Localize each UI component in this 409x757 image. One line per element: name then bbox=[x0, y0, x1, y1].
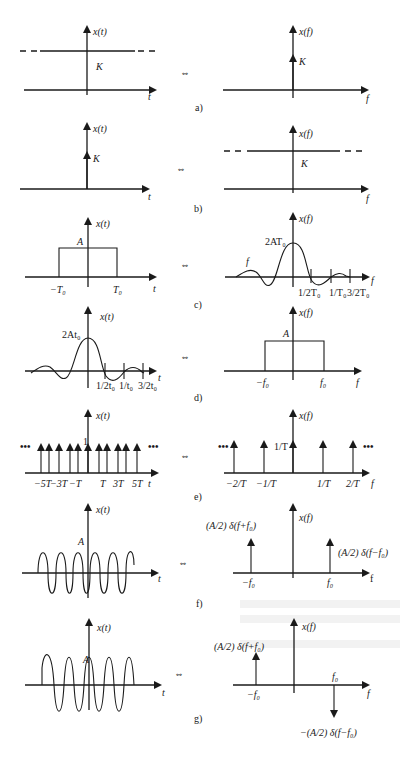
amplitude-label: 1 bbox=[83, 436, 88, 447]
amplitude-label: A bbox=[77, 536, 85, 547]
pair-b: x(t) K t ⇔ x(f) K f b) bbox=[20, 123, 370, 215]
equivalence-arrow-icon: ⇔ bbox=[180, 67, 190, 78]
tick-label: −T bbox=[69, 478, 83, 489]
x-axis-label: t bbox=[153, 283, 156, 294]
y-axis-label: x(f) bbox=[298, 410, 314, 422]
equivalence-arrow-icon: ⇔ bbox=[180, 450, 190, 461]
time-plot-c: x(t) A −T₀ T₀ t bbox=[25, 218, 156, 295]
pair-d: x(t) 2At₀ 1/2t₀ 1/t₀ 3/2t₀ t ⇔ x(f) A −f… bbox=[25, 307, 360, 404]
tick-label: 2/T bbox=[346, 478, 361, 489]
x-axis-label: f bbox=[371, 478, 375, 489]
y-axis-label: x(t) bbox=[95, 410, 111, 422]
tick-label: T bbox=[100, 478, 107, 489]
x-axis-label: f bbox=[366, 93, 370, 104]
tick-label: f₀ bbox=[320, 377, 327, 388]
peak-label: 2At₀ bbox=[62, 329, 81, 340]
caption-f: f) bbox=[196, 598, 203, 610]
impulse-label-left: (A/2) δ(f+f₀) bbox=[214, 641, 265, 653]
equivalence-arrow-icon: ⇔ bbox=[180, 259, 190, 270]
tick-label: f₀ bbox=[332, 671, 339, 682]
x-axis-label: f bbox=[371, 275, 375, 286]
fourier-pairs-figure: x(t) K t ⇔ x(f) K f a) x(t) K t ⇔ bbox=[0, 0, 409, 757]
amplitude-label: A bbox=[76, 236, 84, 247]
equivalence-arrow-icon: ⇔ bbox=[176, 163, 186, 174]
ellipsis-left: ••• bbox=[20, 441, 31, 452]
y-axis-label: x(t) bbox=[92, 123, 108, 135]
impulse-label-left: (A/2) δ(f+f₀) bbox=[206, 520, 257, 532]
caption-d: d) bbox=[194, 392, 202, 404]
tick-label: 5T bbox=[132, 478, 144, 489]
impulse-label-right: (A/2) δ(f−f₀) bbox=[338, 547, 389, 559]
equivalence-arrow-icon: ⇔ bbox=[178, 557, 188, 568]
caption-c: c) bbox=[194, 299, 202, 311]
tick-label: −1/T bbox=[256, 478, 278, 489]
tick-label: −T₀ bbox=[50, 284, 66, 295]
y-axis-label: x(f) bbox=[298, 307, 314, 319]
tick-label: f₀ bbox=[327, 577, 334, 588]
y-axis-label: x(t) bbox=[95, 504, 111, 516]
y-axis-label: x(t) bbox=[96, 622, 112, 634]
ellipsis-left: ••• bbox=[218, 441, 229, 452]
freq-plot-a: x(f) K f bbox=[223, 26, 370, 104]
y-axis-label: x(t) bbox=[95, 218, 111, 230]
amplitude-label: K bbox=[95, 61, 104, 72]
x-axis-label: f bbox=[356, 377, 360, 388]
x-axis-label: f bbox=[367, 688, 371, 699]
y-axis-label: x(f) bbox=[298, 213, 314, 225]
amplitude-label: 1/T bbox=[274, 441, 288, 452]
caption-a: a) bbox=[195, 102, 203, 114]
y-axis-label: x(f) bbox=[301, 621, 317, 633]
y-axis-label: x(f) bbox=[298, 512, 314, 524]
time-plot-f: x(t) A t bbox=[22, 504, 161, 598]
x-axis-label: t bbox=[148, 91, 151, 102]
impulse-label-right: −(A/2) δ(f−f₀) bbox=[300, 727, 358, 739]
x-axis-label: f bbox=[366, 193, 370, 204]
time-plot-d: x(t) 2At₀ 1/2t₀ 1/t₀ 3/2t₀ t bbox=[25, 308, 161, 391]
x-axis-label: t bbox=[148, 191, 151, 202]
caption-b: b) bbox=[194, 203, 202, 215]
freq-plot-f: x(f) (A/2) δ(f+f₀) (A/2) δ(f−f₀) −f₀ f₀ … bbox=[206, 505, 389, 588]
x-axis-label: t bbox=[158, 372, 161, 383]
amplitude-label: A bbox=[82, 654, 90, 665]
tick-label: 1/2T₀ bbox=[298, 287, 321, 298]
pair-c: x(t) A −T₀ T₀ t ⇔ x(f) 2AT₀ f 1/2T₀ 1/T₀… bbox=[25, 213, 375, 311]
time-plot-e: ••• ••• 1 x(t) −5T −3T −T T 3T 5T t bbox=[20, 410, 159, 489]
equivalence-arrow-icon: ⇔ bbox=[174, 668, 184, 679]
caption-e: e) bbox=[194, 491, 202, 503]
x-axis-label: t bbox=[158, 573, 161, 584]
curve-label: f bbox=[246, 256, 250, 267]
equivalence-arrow-icon: ⇔ bbox=[180, 351, 190, 362]
y-axis-label: x(f) bbox=[298, 128, 314, 140]
tick-label: 1/T₀ bbox=[329, 287, 347, 298]
freq-plot-g: x(f) (A/2) δ(f+f₀) −(A/2) δ(f−f₀) −f₀ f₀… bbox=[214, 620, 371, 739]
freq-plot-b: x(f) K f bbox=[224, 127, 370, 204]
time-plot-a: x(t) K t bbox=[20, 26, 155, 102]
y-axis-label: x(t) bbox=[99, 311, 115, 323]
impulse-train bbox=[41, 445, 137, 473]
pair-f: x(t) A t ⇔ x(f) (A/2) δ(f+f₀) (A/2) δ(f−… bbox=[22, 504, 389, 610]
tick-label: 1/t₀ bbox=[119, 380, 134, 391]
x-axis-label: f bbox=[370, 573, 374, 584]
peak-label: 2AT₀ bbox=[265, 236, 286, 247]
constant-label: K bbox=[300, 158, 309, 169]
tick-label: 1/T bbox=[317, 478, 332, 489]
y-axis-label: x(t) bbox=[92, 26, 108, 38]
time-plot-b: x(t) K t bbox=[20, 123, 151, 202]
y-axis-label: x(f) bbox=[298, 26, 314, 38]
ellipsis-right: ••• bbox=[148, 441, 159, 452]
tick-label: 3T bbox=[112, 478, 125, 489]
freq-plot-e: ••• ••• 1/T x(f) −2/T −1/T 1/T 2/T f bbox=[218, 410, 375, 489]
tick-label: −3T bbox=[50, 478, 69, 489]
tick-label: −f₀ bbox=[242, 577, 256, 588]
tick-label: −f₀ bbox=[256, 377, 270, 388]
freq-plot-d: x(f) A −f₀ f₀ f bbox=[224, 307, 360, 388]
pair-g: x(t) A t ⇔ x(f) (A/2) δ(f+f₀) −(A/2) δ(f… bbox=[25, 620, 371, 739]
ellipsis-right: ••• bbox=[363, 441, 374, 452]
x-axis-label: t bbox=[148, 478, 151, 489]
tick-label: 3/2T₀ bbox=[347, 287, 370, 298]
pair-a: x(t) K t ⇔ x(f) K f a) bbox=[20, 26, 370, 114]
impulse-label: K bbox=[298, 56, 307, 67]
tick-label: −2/T bbox=[226, 478, 248, 489]
pair-e: ••• ••• 1 x(t) −5T −3T −T T 3T 5T t ⇔ ••… bbox=[20, 410, 375, 503]
tick-label: 1/2t₀ bbox=[96, 380, 116, 391]
